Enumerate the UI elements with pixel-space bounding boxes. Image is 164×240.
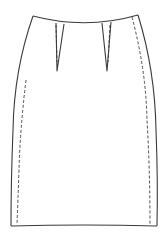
left-topstitch — [17, 80, 26, 224]
right-dart — [102, 22, 111, 71]
left-dart — [56, 23, 64, 71]
skirt-outline-svg — [0, 0, 164, 240]
skirt-flat-drawing: Pencil skirt technical flat sketch — [0, 0, 164, 240]
right-topstitch — [132, 17, 150, 224]
hemline — [11, 225, 157, 226]
right-side-seam — [138, 15, 157, 226]
waistline — [33, 15, 138, 23]
